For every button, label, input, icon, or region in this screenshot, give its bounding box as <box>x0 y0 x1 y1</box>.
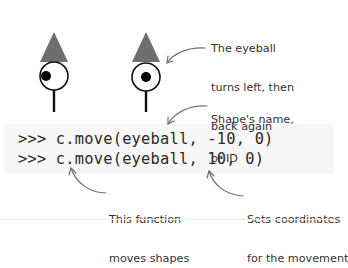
bottom-divider <box>0 219 334 220</box>
hat-triangle <box>132 32 160 62</box>
annotation-line: Shape's name, <box>211 113 294 126</box>
annotation-line: or ID <box>211 152 294 165</box>
arrow-eyeball <box>167 48 205 63</box>
arrow-shape-name <box>168 106 207 124</box>
hat-triangle <box>40 32 68 62</box>
figure-right <box>132 32 160 112</box>
arrow-function <box>69 168 106 193</box>
pupil <box>141 72 151 82</box>
annotation-line: The eyeball <box>211 42 294 55</box>
annotation-shape-name: Shape's name, or ID <box>211 87 294 191</box>
annotation-line: for the movement <box>247 252 348 265</box>
annotation-coordinates: Sets coordinates for the movement <box>247 187 348 268</box>
annotation-function: This function moves shapes <box>109 187 189 268</box>
figure-left <box>40 32 68 112</box>
annotation-line: moves shapes <box>109 252 189 265</box>
pupil <box>41 71 51 81</box>
